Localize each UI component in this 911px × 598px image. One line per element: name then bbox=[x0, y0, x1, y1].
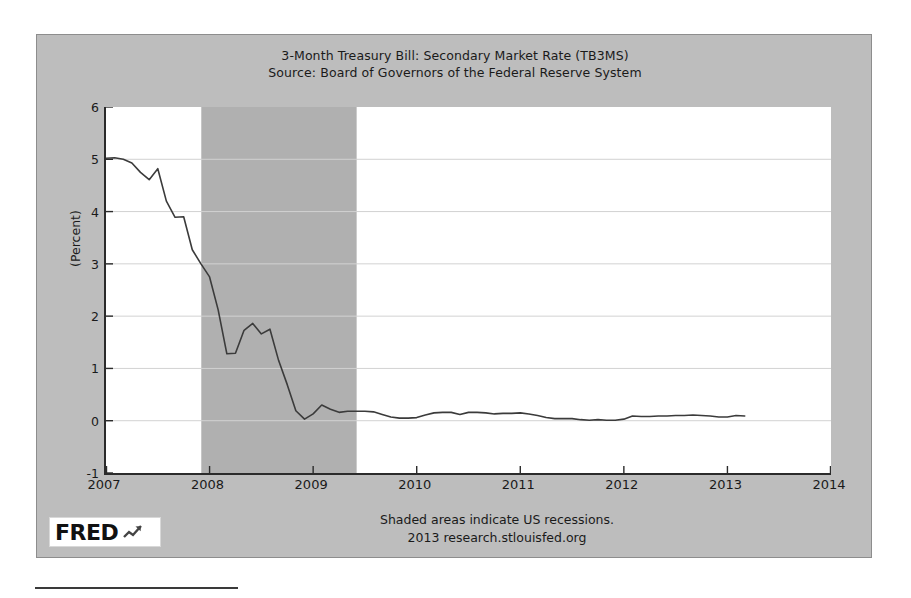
chart-upward-icon bbox=[122, 523, 144, 541]
chart-subtitle: Source: Board of Governors of the Federa… bbox=[37, 64, 873, 81]
x-tick-label: 2014 bbox=[812, 477, 845, 492]
y-tick-label: 3 bbox=[91, 256, 99, 271]
fred-logo: FRED bbox=[49, 517, 161, 547]
y-tick-label: 0 bbox=[91, 413, 99, 428]
x-tick-label: 2012 bbox=[605, 477, 638, 492]
x-tick-label: 2008 bbox=[191, 477, 224, 492]
x-tick-label: 2009 bbox=[295, 477, 328, 492]
y-tick-label: 1 bbox=[91, 361, 99, 376]
chart-title-block: 3-Month Treasury Bill: Secondary Market … bbox=[37, 47, 873, 82]
plot-area bbox=[104, 107, 831, 475]
chart-footer-note: Shaded areas indicate US recessions. 201… bbox=[217, 511, 777, 547]
y-tick-label: 2 bbox=[91, 309, 99, 324]
recession-note: Shaded areas indicate US recessions. bbox=[217, 511, 777, 529]
source-url-note: 2013 research.stlouisfed.org bbox=[217, 529, 777, 547]
bottom-divider-rule bbox=[35, 587, 238, 589]
page-root: 3-Month Treasury Bill: Secondary Market … bbox=[0, 0, 911, 598]
y-tick-label: 5 bbox=[91, 152, 99, 167]
x-tick-label: 2013 bbox=[709, 477, 742, 492]
recession-bands bbox=[201, 107, 356, 473]
x-tick-label: 2010 bbox=[398, 477, 431, 492]
fred-chart-panel: 3-Month Treasury Bill: Secondary Market … bbox=[36, 34, 872, 558]
y-tick-label: 6 bbox=[91, 100, 99, 115]
y-tick-label: 4 bbox=[91, 204, 99, 219]
fred-logo-text: FRED bbox=[50, 520, 118, 545]
y-axis-tick-labels: -10123456 bbox=[67, 107, 99, 473]
chart-title: 3-Month Treasury Bill: Secondary Market … bbox=[37, 47, 873, 64]
recession-band bbox=[201, 107, 356, 473]
x-axis-tick-labels: 20072008200920102011201220132014 bbox=[104, 477, 829, 497]
chart-plot-svg bbox=[106, 107, 831, 473]
x-tick-label: 2007 bbox=[87, 477, 120, 492]
x-tick-label: 2011 bbox=[502, 477, 535, 492]
